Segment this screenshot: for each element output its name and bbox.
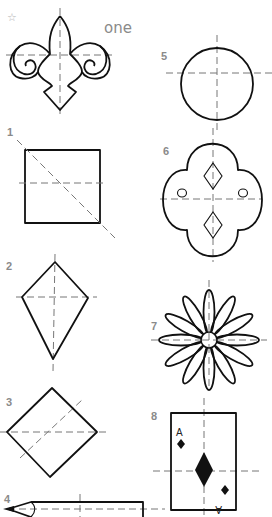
kite-shape <box>16 254 97 372</box>
lobed-tile-shape <box>160 128 262 262</box>
card-corner-bottom: A <box>215 504 222 515</box>
pencil-shape <box>3 494 165 517</box>
playing-card-shape: A A <box>153 398 262 517</box>
fleur-de-lis-shape <box>6 8 112 116</box>
diamond-shape <box>0 388 110 477</box>
circle-shape <box>166 35 272 130</box>
daisy-shape <box>151 280 267 390</box>
card-corner-top: A <box>176 427 183 438</box>
square-shape <box>17 140 115 238</box>
worksheet-drawings: A A <box>0 0 272 517</box>
